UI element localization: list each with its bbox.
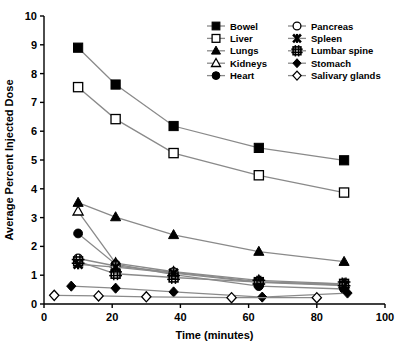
x-axis-title: Time (minutes)	[175, 329, 253, 341]
marker-filled-square	[169, 121, 178, 130]
legend-label: Liver	[230, 33, 253, 44]
y-tick-label: 8	[31, 68, 37, 80]
y-tick-label: 1	[31, 269, 37, 281]
legend-label: Heart	[230, 70, 255, 81]
marker-filled-circle	[212, 72, 220, 80]
marker-filled-square	[212, 22, 220, 30]
marker-open-square	[339, 188, 348, 197]
legend-item-spleen[interactable]: Spleen	[288, 33, 342, 44]
marker-filled-diamond	[111, 283, 120, 293]
legend-item-kidneys[interactable]: Kidneys	[207, 58, 267, 69]
marker-filled-square	[74, 43, 83, 52]
legend-item-salivary-glands[interactable]: Salivary glands	[288, 70, 381, 81]
x-tick-label: 80	[311, 311, 323, 323]
marker-open-diamond	[142, 292, 151, 302]
x-tick-label: 40	[174, 311, 186, 323]
legend-item-heart[interactable]: Heart	[207, 70, 255, 81]
series-line	[78, 203, 344, 262]
marker-open-diamond	[227, 293, 236, 303]
legend-item-stomach[interactable]: Stomach	[288, 58, 351, 69]
legend-label: Spleen	[311, 33, 342, 44]
y-tick-label: 10	[25, 10, 37, 22]
marker-open-triangle	[212, 59, 221, 67]
x-tick-label: 60	[242, 311, 254, 323]
y-tick-label: 4	[31, 183, 38, 195]
marker-open-diamond	[293, 71, 301, 80]
legend-label: Bowel	[230, 21, 258, 32]
marker-filled-diamond	[169, 287, 178, 297]
series-liver	[74, 83, 349, 198]
series-lungs	[73, 197, 349, 265]
marker-open-square	[254, 171, 263, 180]
marker-open-diamond	[94, 291, 103, 301]
chart-container: 012345678910020406080100Time (minutes)Av…	[0, 0, 395, 345]
marker-open-diamond	[50, 290, 59, 300]
y-tick-label: 5	[31, 154, 37, 166]
marker-filled-diamond	[293, 59, 301, 68]
series-line	[78, 87, 344, 192]
marker-filled-square	[254, 143, 263, 152]
line-chart: 012345678910020406080100Time (minutes)Av…	[0, 0, 395, 345]
marker-open-square	[111, 115, 120, 124]
y-tick-label: 9	[31, 39, 37, 51]
legend-item-pancreas[interactable]: Pancreas	[288, 21, 353, 32]
legend-item-lumbar-spine[interactable]: Lumbar spine	[288, 45, 373, 56]
marker-filled-triangle	[212, 46, 221, 54]
marker-filled-square	[339, 156, 348, 165]
y-tick-label: 3	[31, 212, 37, 224]
legend-item-lungs[interactable]: Lungs	[207, 45, 259, 56]
y-axis-title: Average Percent Injected Dose	[3, 80, 15, 241]
y-tick-label: 0	[31, 298, 37, 310]
y-tick-label: 2	[31, 240, 37, 252]
legend-label: Lumbar spine	[311, 45, 373, 56]
marker-open-square	[169, 148, 178, 157]
marker-filled-circle	[74, 229, 83, 238]
legend-label: Kidneys	[230, 58, 267, 69]
marker-filled-square	[111, 80, 120, 89]
legend-label: Stomach	[311, 58, 351, 69]
marker-open-square	[74, 83, 83, 92]
legend-item-bowel[interactable]: Bowel	[207, 21, 258, 32]
legend-label: Pancreas	[311, 21, 353, 32]
x-tick-label: 100	[376, 311, 394, 323]
x-tick-label: 20	[106, 311, 118, 323]
legend-label: Salivary glands	[311, 70, 381, 81]
legend-label: Lungs	[230, 45, 259, 56]
series-bowel	[74, 43, 349, 165]
marker-open-circle	[293, 22, 301, 30]
marker-filled-diamond	[67, 281, 76, 291]
y-tick-label: 7	[31, 96, 37, 108]
legend: BowelPancreasLiverSpleenLungsLumbar spin…	[207, 21, 381, 82]
marker-open-square	[212, 35, 220, 43]
series-line	[78, 48, 344, 161]
y-tick-label: 6	[31, 125, 37, 137]
x-tick-label: 0	[41, 311, 47, 323]
marker-open-triangle	[73, 206, 83, 215]
legend-item-liver[interactable]: Liver	[207, 33, 253, 44]
